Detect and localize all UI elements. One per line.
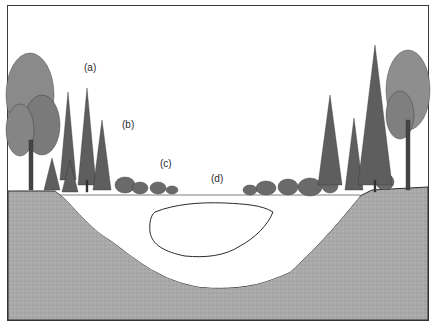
zone-label-d: (d) [211,173,223,184]
zone-label-c: (c) [160,158,172,169]
zone-label-a: (a) [84,62,96,73]
lake-cross-section-illustration [0,0,437,327]
diagram-frame: (a) (b) (c) (d) [0,0,437,327]
zone-label-b: (b) [122,119,134,130]
